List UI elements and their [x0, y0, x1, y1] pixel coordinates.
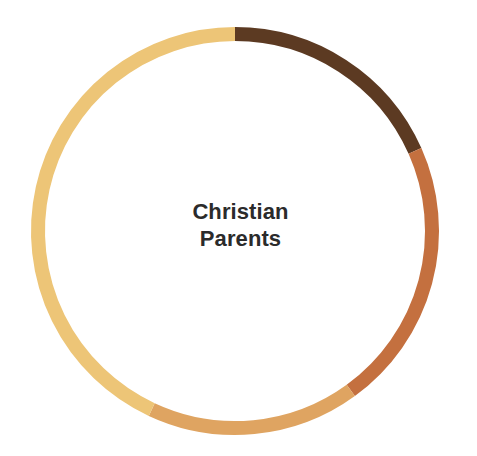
donut-segment-1[interactable]: [235, 34, 415, 151]
donut-segment-4[interactable]: [38, 34, 235, 410]
donut-segment-group: [38, 34, 432, 428]
donut-segment-3[interactable]: [152, 390, 351, 428]
donut-segment-2[interactable]: [351, 151, 432, 391]
donut-chart: Christian Parents: [0, 0, 477, 456]
donut-chart-svg: [0, 0, 477, 456]
